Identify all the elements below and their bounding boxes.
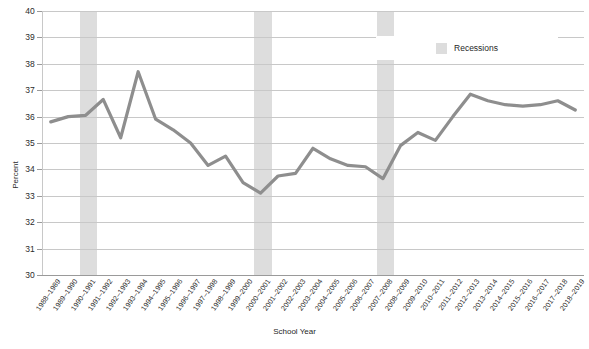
y-axis-tick-mark [37, 249, 42, 250]
y-axis-tick: 34 [0, 164, 35, 174]
y-axis-tick-mark [37, 275, 42, 276]
chart-container: Percent 3031323334353637383940 Recession… [0, 0, 589, 349]
chart-legend: Recessions [376, 36, 558, 60]
y-axis-tick: 30 [0, 270, 35, 280]
series-line [51, 72, 576, 193]
y-axis-tick-mark [37, 143, 42, 144]
y-axis-tick: 38 [0, 59, 35, 69]
y-axis-tick-mark [37, 37, 42, 38]
y-axis-tick: 33 [0, 191, 35, 201]
y-axis-tick-mark [37, 117, 42, 118]
y-axis-tick: 39 [0, 32, 35, 42]
y-axis-tick: 35 [0, 138, 35, 148]
y-axis-tick: 31 [0, 244, 35, 254]
y-axis-tick: 37 [0, 85, 35, 95]
y-axis-tick-mark [37, 64, 42, 65]
gridline [42, 275, 584, 276]
x-axis-title: School Year [0, 327, 589, 336]
y-axis-tick-mark [37, 196, 42, 197]
y-axis-tick: 40 [0, 6, 35, 16]
legend-entry-label: Recessions [454, 43, 498, 53]
y-axis-tick-mark [37, 90, 42, 91]
recession-swatch-icon [436, 43, 447, 54]
y-axis-tick-mark [37, 169, 42, 170]
y-axis-tick-mark [37, 11, 42, 12]
y-axis-tick: 36 [0, 112, 35, 122]
y-axis-tick: 32 [0, 217, 35, 227]
y-axis-tick-mark [37, 222, 42, 223]
